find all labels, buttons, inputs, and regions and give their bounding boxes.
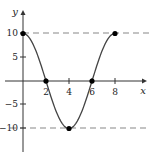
y-tick-label-10: 10 bbox=[7, 28, 19, 38]
cosine-chart: 2 4 6 8 10 5 −5 −10 x y bbox=[0, 0, 149, 159]
data-point bbox=[43, 78, 48, 83]
y-tick-label-5: 5 bbox=[12, 52, 18, 62]
x-tick-label-8: 8 bbox=[112, 87, 118, 97]
y-axis-arrow-icon bbox=[21, 10, 26, 15]
x-axis-arrow-icon bbox=[142, 79, 147, 84]
y-tick-label-neg10: −10 bbox=[0, 123, 18, 133]
y-tick-label-neg5: −5 bbox=[5, 99, 19, 109]
data-point bbox=[89, 78, 94, 83]
y-axis-label: y bbox=[11, 6, 18, 17]
data-point bbox=[66, 126, 71, 131]
data-point bbox=[112, 31, 117, 36]
data-point bbox=[20, 31, 25, 36]
x-tick-label-4: 4 bbox=[66, 87, 72, 97]
x-axis-label: x bbox=[140, 85, 146, 96]
